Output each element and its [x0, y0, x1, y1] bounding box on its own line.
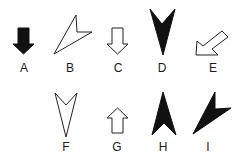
shape-b-arrowhead-outline-icon	[54, 15, 92, 54]
label-e: E	[209, 62, 217, 74]
shape-h-arrowhead-filled-up-icon	[152, 92, 176, 135]
arrow-shapes-canvas	[0, 0, 243, 157]
shape-c-block-arrow-down-outline-icon	[107, 28, 128, 54]
shape-a-block-arrow-down-icon	[13, 28, 34, 54]
label-b: B	[66, 62, 74, 74]
shape-g-block-arrow-up-outline-icon	[107, 108, 128, 133]
label-a: A	[20, 62, 28, 74]
label-c: C	[114, 62, 123, 74]
label-i: I	[206, 141, 209, 153]
label-f: F	[62, 141, 69, 153]
arrow-figure: A B C D E F G H I	[0, 0, 243, 157]
label-d: D	[158, 62, 167, 74]
label-h: H	[159, 141, 168, 153]
shape-i-arrowhead-filled-icon	[193, 92, 231, 134]
label-g: G	[112, 141, 121, 153]
shape-f-arrowhead-outline-down-icon	[55, 93, 77, 137]
shape-e-block-arrow-down-left-outline-icon	[196, 31, 228, 55]
shape-d-arrowhead-filled-down-icon	[150, 9, 175, 55]
